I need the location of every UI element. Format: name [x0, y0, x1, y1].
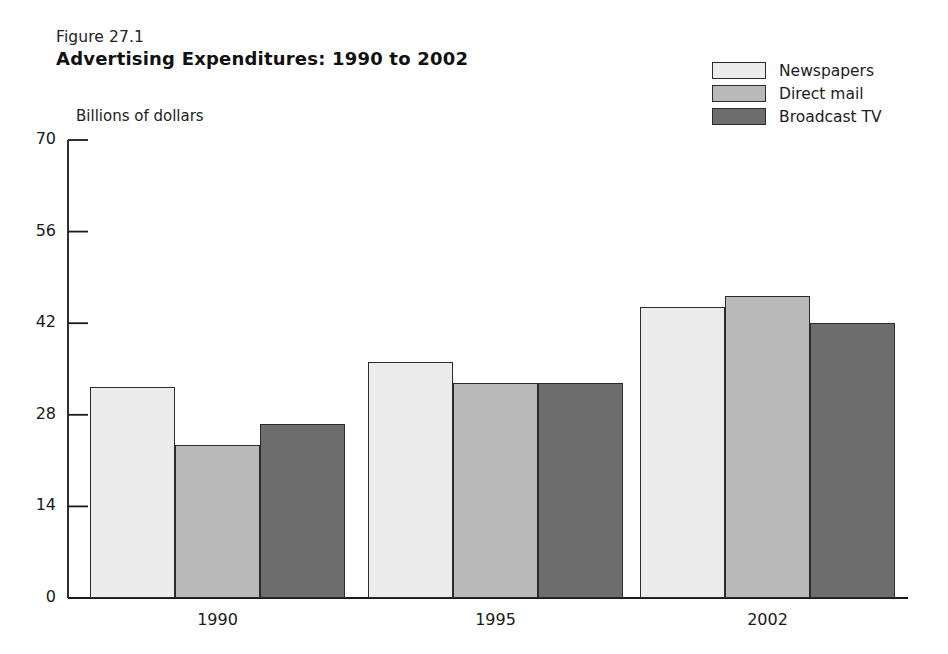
bar-direct-mail-1990 — [175, 445, 260, 598]
x-tick-label: 1990 — [158, 610, 278, 629]
bar-broadcast-tv-1995 — [538, 383, 623, 598]
bar-newspapers-1995 — [368, 362, 453, 598]
bar-newspapers-1990 — [90, 387, 175, 598]
bar-direct-mail-1995 — [453, 383, 538, 598]
y-tick-label: 28 — [12, 404, 56, 423]
y-tick-label: 42 — [12, 312, 56, 331]
x-tick-label: 2002 — [708, 610, 828, 629]
y-tick-label: 14 — [12, 495, 56, 514]
y-tick-label: 0 — [12, 587, 56, 606]
chart-plot-area: 01428425670 199019952002 — [0, 0, 948, 654]
x-tick-label: 1995 — [436, 610, 556, 629]
bar-broadcast-tv-2002 — [810, 323, 895, 598]
bar-broadcast-tv-1990 — [260, 424, 345, 598]
bar-direct-mail-2002 — [725, 296, 810, 598]
bar-newspapers-2002 — [640, 307, 725, 598]
y-tick-label: 56 — [12, 221, 56, 240]
y-tick-label: 70 — [12, 129, 56, 148]
